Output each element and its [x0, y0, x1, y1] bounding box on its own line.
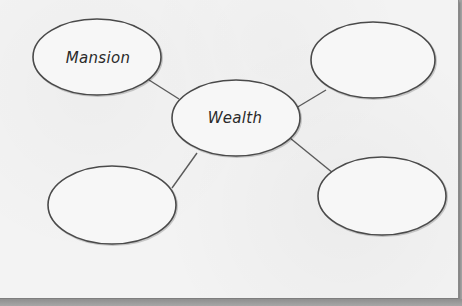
node-top-right[interactable]	[311, 22, 436, 99]
node-bottom-right[interactable]	[318, 157, 447, 236]
node-ellipse[interactable]	[48, 166, 176, 244]
connector-bottom-right	[290, 138, 333, 173]
connector-top-right	[296, 90, 326, 108]
connector-bottom-left	[172, 153, 197, 188]
node-ellipse[interactable]	[311, 22, 435, 98]
node-bottom-left[interactable]	[48, 166, 177, 245]
node-center[interactable]: Wealth	[172, 80, 301, 157]
connector-top-left	[149, 80, 179, 99]
mind-map: Mansion Wealth	[0, 0, 462, 306]
diagram-frame: Mansion Wealth	[0, 0, 462, 306]
node-top-left[interactable]: Mansion	[33, 19, 162, 96]
node-label-mansion: Mansion	[66, 49, 130, 67]
node-ellipse[interactable]	[318, 157, 446, 235]
node-label-wealth: Wealth	[208, 109, 263, 127]
